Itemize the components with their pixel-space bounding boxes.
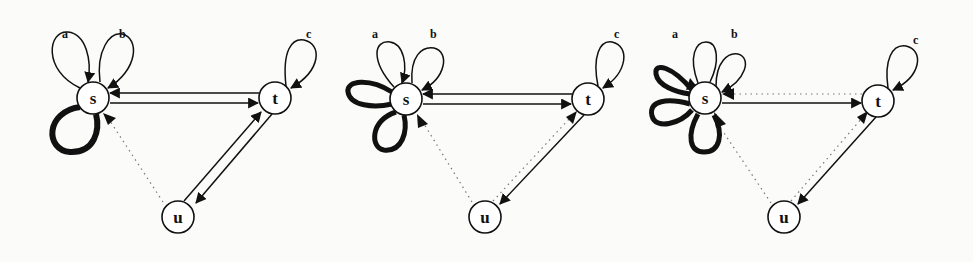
self-loop-b	[412, 48, 444, 90]
edge-u-to-s-dotted	[424, 124, 472, 202]
edge-u-to-s-dotted	[110, 121, 163, 202]
self-loop-thick-left	[348, 82, 392, 106]
edge-label-b: b	[731, 27, 738, 41]
arrowhead	[566, 111, 577, 124]
self-loop-thick-upper-left	[656, 67, 692, 94]
svg-text:u: u	[779, 208, 788, 227]
panel-2: a b c s t u	[348, 27, 624, 233]
self-loop-c	[596, 42, 624, 88]
svg-text:s: s	[90, 89, 97, 108]
edge-u-to-t	[184, 112, 261, 201]
edge-label-b: b	[119, 27, 126, 41]
arrowhead	[417, 114, 428, 128]
self-loop-a	[52, 32, 89, 88]
self-loop-c	[887, 46, 918, 90]
node-u: u	[768, 201, 800, 233]
arrowhead	[714, 112, 726, 128]
svg-text:s: s	[403, 90, 410, 109]
panel-3: a b c s t u	[651, 27, 919, 233]
edge-t-to-u	[798, 117, 876, 204]
panel-1: a b c s t u	[52, 27, 316, 233]
svg-text:t: t	[272, 89, 278, 108]
node-s: s	[390, 83, 422, 115]
edge-label-a: a	[62, 27, 68, 41]
arrowhead	[722, 88, 734, 100]
node-t: t	[259, 82, 291, 114]
edge-u-to-t-dotted	[791, 118, 862, 201]
svg-text:t: t	[875, 92, 881, 111]
node-t: t	[572, 83, 604, 115]
node-t: t	[862, 85, 894, 117]
edge-label-a: a	[372, 27, 378, 41]
edge-label-c: c	[913, 33, 919, 47]
node-u: u	[469, 201, 501, 233]
edge-label-b: b	[430, 27, 437, 41]
edge-t-to-u	[500, 115, 584, 204]
edge-label-c: c	[614, 27, 620, 41]
svg-text:u: u	[173, 208, 182, 227]
node-s: s	[77, 82, 109, 114]
edge-u-to-t-dotted	[493, 118, 570, 201]
edge-t-to-u	[196, 114, 272, 203]
self-loop-thick-bottom	[375, 112, 406, 150]
node-s: s	[689, 82, 721, 114]
svg-text:u: u	[480, 208, 489, 227]
self-loop-a	[693, 42, 716, 83]
edge-u-to-s-dotted	[722, 130, 771, 203]
self-loop-c	[285, 40, 316, 88]
self-loop-b	[99, 34, 133, 88]
graph-figure: a b c s t u a b	[0, 0, 973, 262]
svg-text:s: s	[702, 89, 709, 108]
node-u: u	[162, 201, 194, 233]
self-loop-a	[377, 42, 405, 87]
arrowhead	[103, 113, 116, 125]
self-loop-b	[716, 54, 745, 92]
edge-label-a: a	[672, 27, 678, 41]
self-loop-thick-left	[651, 101, 692, 124]
edge-label-c: c	[306, 27, 312, 41]
svg-text:t: t	[585, 90, 591, 109]
